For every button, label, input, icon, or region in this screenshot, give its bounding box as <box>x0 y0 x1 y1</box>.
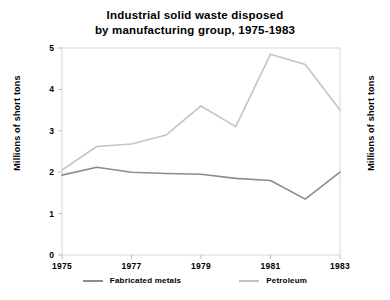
plot-frame <box>62 48 340 255</box>
chart-legend: Fabricated metalsPetroleum <box>0 276 390 285</box>
legend-label: Fabricated metals <box>110 276 181 285</box>
legend-item[interactable]: Petroleum <box>239 276 307 285</box>
legend-swatch-icon <box>83 280 103 282</box>
legend-swatch-icon <box>239 280 259 282</box>
series-line-petroleum <box>62 54 340 170</box>
plot-area <box>0 0 390 300</box>
legend-label: Petroleum <box>266 276 307 285</box>
legend-item[interactable]: Fabricated metals <box>83 276 181 285</box>
series-line-fabricated-metals <box>62 167 340 199</box>
chart-container: Industrial solid waste disposed by manuf… <box>0 0 390 300</box>
